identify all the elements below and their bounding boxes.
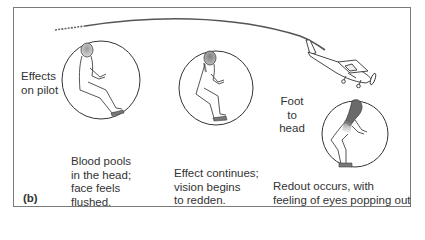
foot-to-head-label: Foot to head: [272, 95, 312, 136]
stage-2-caption: Effect continues; vision begins to redde…: [174, 167, 259, 208]
airplane-icon: [306, 40, 377, 88]
stage-3-pilot-figure: [322, 100, 388, 167]
stage-2-pilot-figure: [179, 51, 253, 125]
effects-on-pilot-label: Effects on pilot: [21, 70, 58, 97]
panel-label: (b): [23, 192, 38, 206]
stage-3-caption: Redout occurs, with feeling of eyes popp…: [273, 180, 410, 207]
stage-1-caption: Blood pools in the head; face feels flus…: [71, 155, 131, 209]
stage-1-pilot-figure: [62, 41, 140, 119]
